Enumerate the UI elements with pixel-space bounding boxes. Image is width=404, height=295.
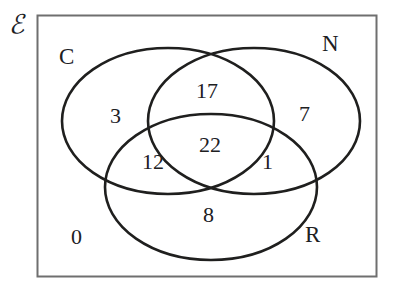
region-count-r-only: 8 <box>203 204 214 226</box>
set-label-c: C <box>59 45 75 68</box>
universal-set-label: ℰ <box>7 10 25 37</box>
region-count-outside-all-sets: 0 <box>71 226 82 248</box>
set-label-r: R <box>305 223 321 246</box>
region-count-n-and-r: 1 <box>262 151 273 173</box>
region-count-c-only: 3 <box>110 105 121 127</box>
region-count-n-only: 7 <box>299 103 310 125</box>
region-count-c-and-n-and-r: 22 <box>199 134 221 156</box>
region-count-c-and-r: 12 <box>142 151 164 173</box>
region-count-c-and-n: 17 <box>196 80 218 102</box>
venn-diagram-figure: ℰ C N R 3 7 8 17 12 1 22 0 <box>0 0 404 295</box>
set-label-n: N <box>322 32 339 55</box>
